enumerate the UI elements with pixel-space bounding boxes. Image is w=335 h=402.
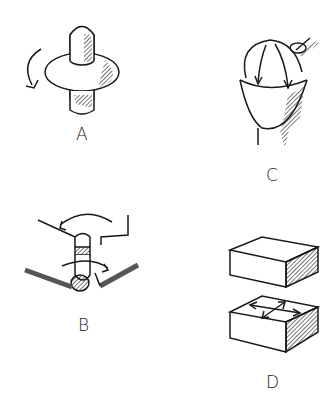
figure-d-drawing [230,237,318,352]
figure-label-a: A [76,124,88,144]
figure-label-b: B [78,315,89,335]
figure-a-drawing [26,27,119,115]
figure-label-c: C [266,165,278,185]
illustration-canvas [0,0,335,402]
figure-b-drawing [25,214,138,291]
figure-c-drawing [240,38,318,148]
figure-label-d: D [266,372,279,392]
